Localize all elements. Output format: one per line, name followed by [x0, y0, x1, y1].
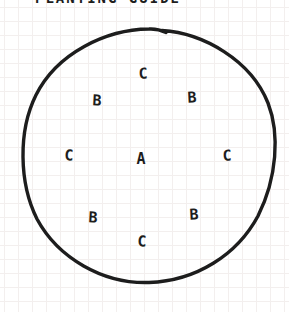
plant-label-lower-right: B: [189, 207, 199, 222]
plant-label-upper-right: B: [187, 90, 197, 105]
circle-outline-path: [23, 29, 275, 283]
plant-label-right: C: [222, 148, 232, 163]
plant-label-top: C: [138, 66, 148, 81]
plant-label-center: A: [136, 152, 145, 167]
plant-label-left: C: [64, 148, 74, 163]
plant-label-lower-left: B: [88, 210, 98, 225]
planting-guide-sketch: PLANTING GUIDE CBBCACBBC: [0, 0, 289, 312]
plant-label-bottom: C: [137, 234, 147, 249]
plant-label-upper-left: B: [92, 93, 102, 108]
